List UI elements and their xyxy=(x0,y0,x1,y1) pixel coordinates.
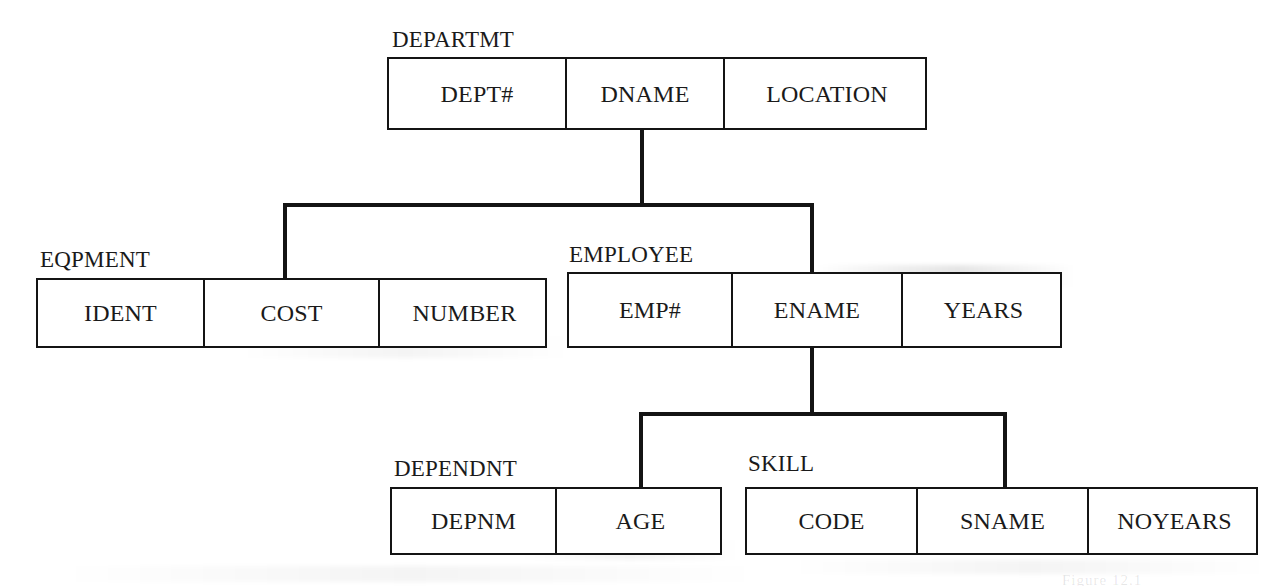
field-cell: DNAME xyxy=(567,59,725,128)
field-cell: DEPNM xyxy=(392,489,557,553)
entity-table-eqpment: IDENTCOSTNUMBER xyxy=(36,278,547,348)
connector-departmt-stem xyxy=(640,128,644,207)
connector-dependnt-drop xyxy=(639,412,643,489)
schema-diagram-canvas: DEPARTMTDEPT#DNAMELOCATIONEQPMENTIDENTCO… xyxy=(0,0,1287,588)
scan-artifact xyxy=(60,566,760,582)
figure-caption-fragment: Figure 12.1 xyxy=(1062,572,1212,586)
field-cell: YEARS xyxy=(903,274,1064,346)
field-cell: COST xyxy=(205,280,380,346)
connector-departmt-children-bar xyxy=(283,203,814,207)
connector-employee-stem xyxy=(810,346,814,416)
field-cell: LOCATION xyxy=(725,59,929,128)
field-cell: NOYEARS xyxy=(1089,489,1260,553)
connector-eqpment-drop xyxy=(283,203,287,280)
entity-table-dependnt: DEPNMAGE xyxy=(390,487,722,555)
connector-employee-children-bar xyxy=(639,412,1007,416)
field-cell: DEPT# xyxy=(389,59,567,128)
field-cell: ENAME xyxy=(733,274,903,346)
field-cell: CODE xyxy=(747,489,918,553)
field-cell: SNAME xyxy=(918,489,1089,553)
entity-label-departmt: DEPARTMT xyxy=(392,28,514,51)
entity-label-eqpment: EQPMENT xyxy=(40,248,150,271)
field-cell: IDENT xyxy=(38,280,205,346)
field-cell: NUMBER xyxy=(380,280,549,346)
entity-table-departmt: DEPT#DNAMELOCATION xyxy=(387,57,927,130)
connector-employee-drop xyxy=(810,203,814,274)
entity-label-skill: SKILL xyxy=(748,452,814,475)
entity-table-skill: CODESNAMENOYEARS xyxy=(745,487,1258,555)
entity-label-dependnt: DEPENDNT xyxy=(394,457,517,480)
connector-skill-drop xyxy=(1003,412,1007,489)
field-cell: EMP# xyxy=(569,274,733,346)
field-cell: AGE xyxy=(557,489,724,553)
entity-label-employee: EMPLOYEE xyxy=(569,243,693,266)
entity-table-employee: EMP#ENAMEYEARS xyxy=(567,272,1062,348)
